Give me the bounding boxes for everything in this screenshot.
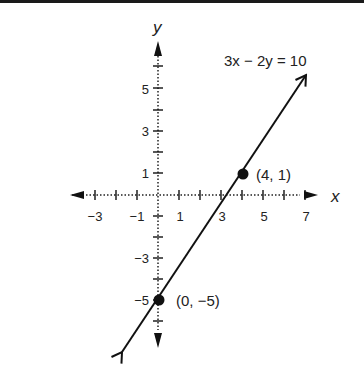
- svg-text:3: 3: [218, 209, 225, 224]
- svg-text:5: 5: [260, 209, 267, 224]
- coordinate-plane: y x 3x − 2y = 10 (4, 1) (0, −5) −3 −1 1 …: [0, 0, 364, 376]
- svg-text:−1: −1: [130, 209, 145, 224]
- svg-text:5: 5: [142, 82, 149, 97]
- svg-text:3: 3: [142, 124, 149, 139]
- x-tick-labels: −3 −1 1 3 5 7: [88, 209, 310, 224]
- svg-text:−3: −3: [88, 209, 103, 224]
- point-4-1-label: (4, 1): [256, 166, 291, 183]
- svg-text:−3: −3: [134, 251, 149, 266]
- y-axis-label: y: [152, 18, 163, 37]
- point-0-neg5-label: (0, −5): [176, 292, 220, 309]
- point-0-neg5: [154, 295, 165, 306]
- equation-label: 3x − 2y = 10: [224, 52, 307, 69]
- svg-text:−5: −5: [134, 293, 149, 308]
- point-4-1: [238, 169, 249, 180]
- svg-text:1: 1: [142, 166, 149, 181]
- x-axis: [70, 190, 318, 200]
- svg-text:7: 7: [302, 209, 309, 224]
- equation-line: [122, 75, 306, 352]
- x-axis-label: x: [330, 187, 340, 206]
- svg-text:1: 1: [176, 209, 183, 224]
